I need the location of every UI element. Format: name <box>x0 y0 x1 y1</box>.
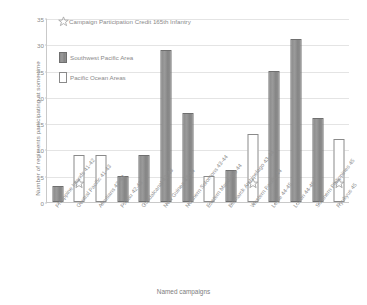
legend-swatch-southwest-pacific-area <box>59 52 67 63</box>
legend-label-pacific-ocean-areas: Pacific Ocean Areas <box>70 74 126 81</box>
legend-star-entry: Campaign Participation Credit 165th Infa… <box>58 16 191 27</box>
legend-item-pacific-ocean-areas: Pacific Ocean Areas <box>59 72 126 83</box>
legend-swatch-pacific-ocean-areas <box>59 72 67 83</box>
legend-item-southwest-pacific-area: Southwest Pacific Area <box>59 52 133 63</box>
legend-star-label: Campaign Participation Credit 165th Infa… <box>69 18 191 25</box>
legend: Campaign Participation Credit 165th Infa… <box>0 0 367 305</box>
star-icon <box>58 16 69 27</box>
legend-label-southwest-pacific-area: Southwest Pacific Area <box>70 54 133 61</box>
bar-chart: Number of regiments participating at som… <box>0 0 367 305</box>
